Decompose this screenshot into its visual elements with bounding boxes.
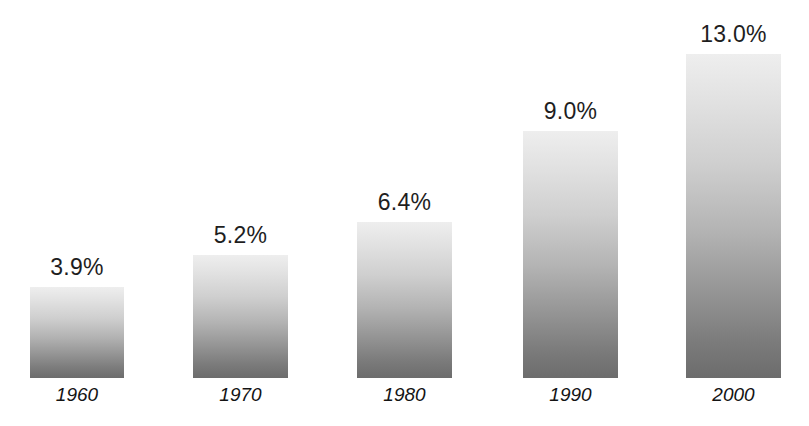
bar-group-1980: 6.4% 1980 bbox=[357, 0, 452, 426]
bar-value-label: 6.4% bbox=[378, 189, 432, 216]
bar-chart: 3.9% 1960 5.2% 1970 6.4% 1980 9.0% 1990 … bbox=[0, 0, 809, 426]
bar-category-label: 1980 bbox=[383, 384, 425, 406]
bar-category-label: 1990 bbox=[549, 384, 591, 406]
bar-rect bbox=[357, 222, 452, 378]
bar-value-label: 13.0% bbox=[700, 21, 767, 48]
plot-area: 3.9% 1960 5.2% 1970 6.4% 1980 9.0% 1990 … bbox=[0, 0, 809, 426]
bar-value-label: 3.9% bbox=[50, 254, 104, 281]
bar-rect bbox=[523, 131, 618, 378]
bar-rect bbox=[30, 287, 124, 378]
bar-group-1990: 9.0% 1990 bbox=[523, 0, 618, 426]
bar-value-label: 9.0% bbox=[544, 98, 598, 125]
bar-group-2000: 13.0% 2000 bbox=[686, 0, 781, 426]
bar-category-label: 1970 bbox=[219, 384, 261, 406]
bar-rect bbox=[686, 54, 781, 378]
bar-group-1960: 3.9% 1960 bbox=[30, 0, 124, 426]
bar-rect bbox=[193, 255, 288, 378]
bar-value-label: 5.2% bbox=[214, 222, 268, 249]
bar-category-label: 1960 bbox=[56, 384, 98, 406]
bar-category-label: 2000 bbox=[712, 384, 754, 406]
bar-group-1970: 5.2% 1970 bbox=[193, 0, 288, 426]
